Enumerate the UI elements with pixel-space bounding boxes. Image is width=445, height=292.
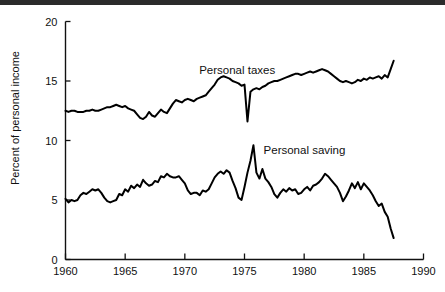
series-annotation-personal-taxes: Personal taxes xyxy=(199,64,275,76)
x-tick-marks xyxy=(66,254,424,260)
y-tick-label: 10 xyxy=(45,135,57,147)
y-axis-group: 05101520 Percent of personal income xyxy=(9,16,71,266)
x-tick-label: 1960 xyxy=(53,265,77,277)
y-tick-label: 15 xyxy=(45,75,57,87)
x-tick-labels: 1960196519701975198019851990 xyxy=(53,265,435,277)
x-tick-label: 1985 xyxy=(352,265,376,277)
y-tick-labels: 05101520 xyxy=(45,16,57,266)
x-tick-label: 1980 xyxy=(292,265,316,277)
chart-page: 05101520 Percent of personal income 1960… xyxy=(0,0,445,292)
series-line-personal-saving xyxy=(66,145,394,238)
y-tick-label: 5 xyxy=(51,194,57,206)
series-annotation-personal-saving: Personal saving xyxy=(264,144,346,156)
x-tick-label: 1975 xyxy=(232,265,256,277)
y-tick-label: 20 xyxy=(45,16,57,28)
y-tick-marks xyxy=(66,22,71,260)
x-tick-label: 1990 xyxy=(411,265,435,277)
y-axis-title: Percent of personal income xyxy=(9,51,21,185)
x-axis-group: 1960196519701975198019851990 xyxy=(53,254,435,277)
x-tick-label: 1965 xyxy=(113,265,137,277)
x-tick-label: 1970 xyxy=(173,265,197,277)
line-chart: 05101520 Percent of personal income 1960… xyxy=(0,0,445,292)
